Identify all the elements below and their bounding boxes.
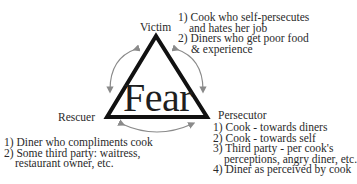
item-text: Diner as perceived by cook [225, 163, 351, 175]
item-number: 3) [213, 142, 223, 154]
item-number: 2) [4, 147, 14, 159]
victim-item-1: 1) Cook who self-persecutes [178, 12, 309, 23]
persecutor-item-3: 3) Third party - per cook's [213, 143, 357, 154]
item-number: 4) [213, 163, 223, 175]
victim-item-2: 2) Diners who get poor food [178, 33, 309, 44]
item-number: 1) [178, 11, 188, 23]
persecutor-item-4: 4) Diner as perceived by cook [213, 164, 357, 175]
rescuer-item-2-cont: restaurant owner, etc. [4, 158, 153, 169]
rescuer-list: 1) Diner who compliments cook 2) Some th… [4, 137, 153, 169]
arrow-rescuer-persecutor [122, 124, 192, 132]
victim-list: 1) Cook who self-persecutes and hates he… [178, 12, 309, 54]
persecutor-list: 1) Cook - towards diners 2) Cook - towar… [213, 122, 357, 175]
victim-item-2-cont: & experience [178, 44, 309, 55]
center-label-fear: Fear [123, 78, 192, 118]
vertex-label-rescuer: Rescuer [58, 112, 95, 123]
vertex-label-victim: Victim [140, 22, 171, 33]
vertex-label-persecutor: Persecutor [218, 110, 267, 121]
item-number: 2) [178, 32, 188, 44]
